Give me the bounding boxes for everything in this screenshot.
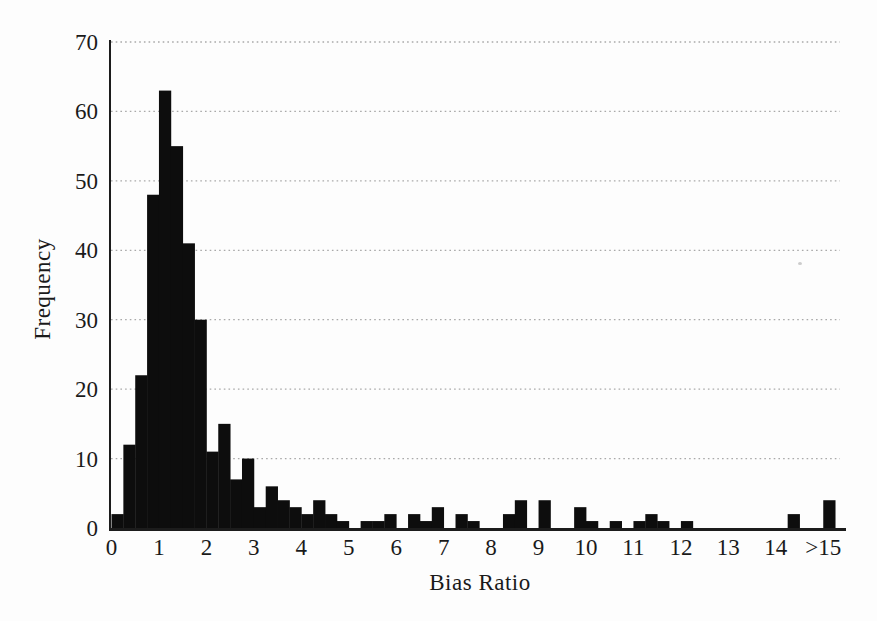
histogram-bar xyxy=(313,500,325,530)
x-tick-label: 4 xyxy=(296,535,308,560)
histogram-bar xyxy=(515,500,527,530)
scan-speck xyxy=(798,262,802,265)
x-tick-label: 11 xyxy=(622,535,644,560)
histogram-bar xyxy=(432,507,444,530)
x-tick-label: 0 xyxy=(106,535,118,560)
y-tick-label: 50 xyxy=(75,169,98,194)
histogram-bar xyxy=(159,91,171,531)
histogram-bar xyxy=(823,500,835,530)
x-tick-label: 6 xyxy=(390,535,402,560)
histogram-bar xyxy=(266,486,278,530)
histogram-bar xyxy=(574,507,586,530)
y-tick-label: 60 xyxy=(75,99,98,124)
y-tick-label: 40 xyxy=(75,238,98,263)
histogram-bar xyxy=(195,320,207,531)
y-tick-label: 30 xyxy=(75,308,98,333)
histogram-bar xyxy=(218,424,230,531)
x-axis-title: Bias Ratio xyxy=(380,570,580,596)
plot-area: 01020304050607001234567891011121314>15 xyxy=(0,0,877,621)
y-tick-label: 70 xyxy=(75,30,98,55)
x-tick-label: >15 xyxy=(805,535,841,560)
histogram-bar xyxy=(123,445,135,531)
x-tick-label: 8 xyxy=(485,535,497,560)
x-tick-label: 14 xyxy=(764,535,788,560)
x-tick-label: 10 xyxy=(575,535,598,560)
histogram-bar xyxy=(539,500,551,530)
histogram-bar xyxy=(135,375,147,530)
histogram-bar xyxy=(206,452,218,531)
histogram-bar xyxy=(289,507,301,530)
histogram-bar xyxy=(230,479,242,530)
y-tick-label: 10 xyxy=(75,447,98,472)
histogram-bar xyxy=(183,243,195,530)
x-tick-label: 3 xyxy=(248,535,260,560)
y-tick-label: 20 xyxy=(75,377,98,402)
histogram-bar xyxy=(254,507,266,530)
x-tick-label: 12 xyxy=(669,535,692,560)
x-tick-label: 7 xyxy=(438,535,450,560)
histogram-bar xyxy=(242,459,254,531)
x-tick-label: 2 xyxy=(201,535,213,560)
x-tick-label: 13 xyxy=(717,535,740,560)
x-tick-label: 9 xyxy=(533,535,545,560)
x-tick-label: 5 xyxy=(343,535,355,560)
histogram-bar xyxy=(278,500,290,530)
histogram-bar xyxy=(147,195,159,531)
x-tick-label: 1 xyxy=(153,535,165,560)
histogram-bar xyxy=(171,146,183,530)
y-tick-label: 0 xyxy=(87,516,99,541)
y-axis-title: Frequency xyxy=(30,209,56,369)
histogram-figure: 01020304050607001234567891011121314>15 F… xyxy=(0,0,877,621)
